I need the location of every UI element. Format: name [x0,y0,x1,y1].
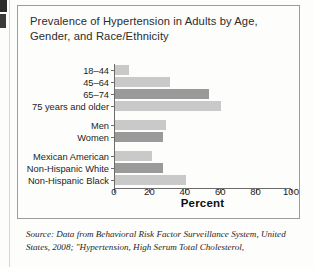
x-axis-tick-label: 0 [111,186,116,197]
bar [115,163,163,173]
category-label: Women [77,133,109,143]
x-axis-tick-label: 100 [283,186,299,197]
category-label: 75 years and older [32,102,109,112]
x-axis-tick-label: 20 [144,186,155,197]
x-axis-title: Percent [114,197,291,209]
category-label: Non-Hispanic White [27,164,109,174]
figure-page: Prevalence of Hypertension in Adults by … [0,0,314,267]
bar-chart: 18–4445–6465–7475 years and olderMenWome… [18,58,301,218]
bar [115,132,163,142]
scan-artifact [0,0,7,12]
x-axis-tick-label: 80 [250,186,261,197]
bar [115,151,152,161]
bar [115,120,166,130]
bar [115,77,170,87]
scan-artifact-secondary [0,14,6,28]
y-axis-tick [111,137,114,138]
bar [115,65,129,75]
bar [115,89,209,99]
plot-area [114,64,291,189]
category-label: 45–64 [83,78,109,88]
y-axis-tick [111,106,114,107]
y-axis-tick [111,94,114,95]
page-edge-line [9,0,10,267]
y-axis-tick [111,82,114,83]
x-axis-tick-label: 40 [180,186,191,197]
category-label: Men [91,121,109,131]
y-axis-tick [111,70,114,71]
x-axis-tick-label: 60 [215,186,226,197]
category-axis-labels: 18–4445–6465–7475 years and olderMenWome… [18,58,112,189]
y-axis-tick [111,168,114,169]
category-label: 18–44 [83,66,109,76]
category-label: Non-Hispanic Black [28,176,109,186]
bar [115,175,186,185]
figure-title: Prevalence of Hypertension in Adults by … [30,14,288,44]
source-caption: Source: Data from Behavioral Risk Factor… [26,228,298,254]
y-axis-tick [111,125,114,126]
figure-box: Prevalence of Hypertension in Adults by … [17,5,300,219]
bar [115,101,221,111]
category-label: 65–74 [83,90,109,100]
y-axis-tick [111,156,114,157]
x-axis-line [114,188,291,189]
y-axis-tick [111,180,114,181]
category-label: Mexican American [33,152,109,162]
